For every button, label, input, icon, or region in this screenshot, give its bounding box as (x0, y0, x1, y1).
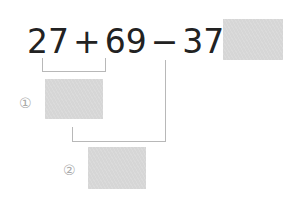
connector-vertical-37 (165, 60, 166, 142)
bracket-left (42, 58, 43, 72)
term-27: 27 (27, 22, 69, 61)
step-1-box[interactable] (45, 79, 103, 119)
connector-vertical-1 (72, 127, 73, 142)
answer-box[interactable] (223, 19, 283, 60)
term-37: 37 (182, 22, 224, 61)
minus-sign: − (151, 22, 179, 61)
step-2-label: ② (63, 162, 76, 178)
bracket-bottom (42, 71, 106, 72)
step-2-box[interactable] (88, 147, 146, 189)
step-1-label: ① (19, 95, 32, 111)
term-69: 69 (105, 22, 147, 61)
plus-sign: + (73, 22, 101, 61)
connector-horizontal (72, 141, 166, 142)
bracket-right (105, 58, 106, 72)
